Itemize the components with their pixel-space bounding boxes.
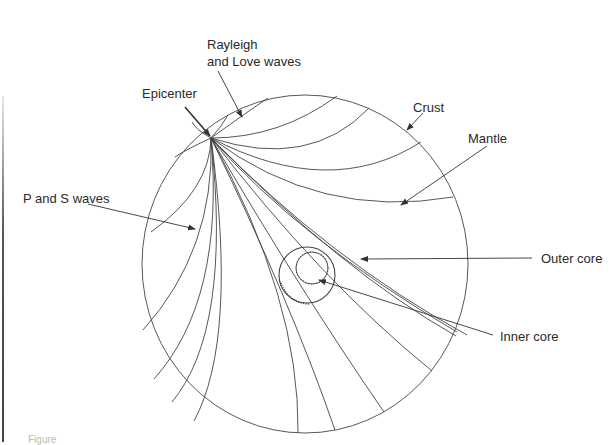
- wave-ray: [151, 138, 211, 232]
- epicenter-arrow: [185, 107, 210, 136]
- figure-caption: Figure: [28, 434, 56, 445]
- wave-ray: [211, 96, 337, 138]
- wave-ray: [211, 138, 298, 433]
- rayleigh-arrow: [218, 71, 242, 117]
- epicenter-label: Epicenter: [142, 86, 197, 101]
- inner-core-label: Inner core: [500, 329, 559, 344]
- mantle-label: Mantle: [468, 131, 507, 146]
- crust-label: Crust: [413, 100, 444, 115]
- surface-wave-arc: [192, 122, 211, 138]
- surface-wave-arc: [211, 98, 268, 138]
- wave-ray: [154, 138, 213, 379]
- wave-ray: [211, 138, 457, 332]
- p-and-s-waves-label: P and S waves: [23, 191, 109, 206]
- rayleigh-label: Rayleigh: [207, 37, 258, 52]
- wave-ray: [211, 108, 369, 149]
- wave-ray: [143, 138, 211, 330]
- wave-ray: [194, 138, 221, 421]
- love-waves-label: and Love waves: [207, 54, 301, 69]
- outer-core-label: Outer core: [541, 251, 602, 266]
- inner-core-arrow: [319, 280, 493, 335]
- outer-core-arrow: [361, 258, 532, 259]
- wave-ray: [211, 138, 467, 335]
- wave-ray: [211, 138, 456, 336]
- mantle-arrow: [401, 146, 487, 205]
- crust-arrow: [407, 113, 423, 130]
- surface-wave-arc: [211, 115, 228, 138]
- wave-ray: [211, 138, 335, 430]
